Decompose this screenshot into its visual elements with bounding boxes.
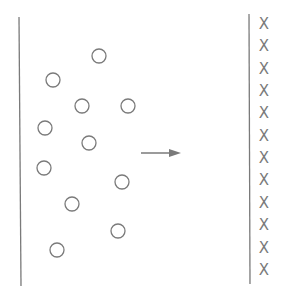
right-boundary-line (249, 14, 250, 284)
arrow-head (169, 149, 181, 157)
circle-particle (82, 136, 96, 150)
x-mark: X (259, 82, 269, 100)
x-mark: X (259, 239, 269, 257)
circle-particle (111, 224, 125, 238)
left-boundary-line (19, 17, 21, 286)
x-mark-column: XXXXXXXXXXXX (259, 15, 269, 279)
circle-particle (50, 243, 64, 257)
x-mark: X (259, 194, 269, 212)
arrow-icon (141, 149, 181, 157)
circle-particles (37, 49, 135, 257)
circle-particle (75, 99, 89, 113)
circle-particle (38, 121, 52, 135)
x-mark: X (259, 149, 269, 167)
circle-particle (65, 197, 79, 211)
particle-diagram: XXXXXXXXXXXX (0, 0, 292, 298)
x-mark: X (259, 104, 269, 122)
x-mark: X (259, 37, 269, 55)
x-mark: X (259, 60, 269, 78)
x-mark: X (259, 171, 269, 189)
x-mark: X (259, 216, 269, 234)
circle-particle (92, 49, 106, 63)
circle-particle (115, 175, 129, 189)
circle-particle (121, 99, 135, 113)
circle-particle (46, 73, 60, 87)
circle-particle (37, 161, 51, 175)
x-mark: X (259, 261, 269, 279)
x-mark: X (259, 15, 269, 33)
x-mark: X (259, 127, 269, 145)
